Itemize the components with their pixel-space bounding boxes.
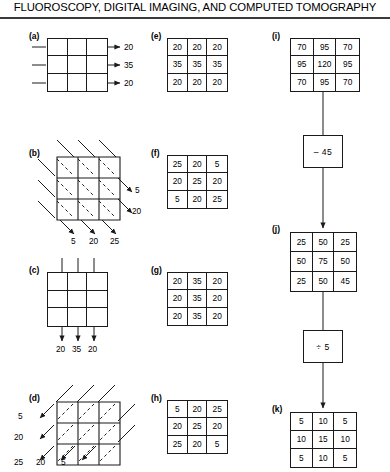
- panel-h-grid: 5 20 25 20 25 20 25 20 5: [167, 400, 228, 454]
- panel-i-grid: 70 95 70 95 120 95 70 95 70: [290, 38, 360, 92]
- grid-cell: [48, 273, 68, 291]
- grid-cell: 10: [334, 431, 356, 449]
- grid-cell: 20: [168, 173, 188, 190]
- grid-cell: 35: [188, 56, 208, 73]
- grid-cell: 5: [168, 191, 188, 208]
- panel-d-grid: [38, 395, 143, 470]
- panel-g-grid: 20 35 20 20 35 20 20 35 20: [167, 272, 228, 326]
- grid-cell: 20: [207, 273, 227, 290]
- grid-cell: [87, 308, 107, 326]
- header-divider: [0, 17, 390, 19]
- grid-cell: [48, 39, 68, 56]
- panel-label-g: (g): [151, 265, 162, 275]
- grid-cell: 25: [188, 173, 208, 190]
- grid-cell: 70: [336, 74, 359, 91]
- panel-a-grid: [47, 38, 108, 92]
- grid-cell: 5: [334, 413, 356, 431]
- page-header: FLUOROSCOPY, DIGITAL IMAGING, AND COMPUT…: [0, 0, 390, 22]
- grid-cell: 50: [313, 233, 335, 252]
- grid-cell: 5: [207, 436, 227, 453]
- grid-cell: 50: [334, 252, 356, 271]
- grid-cell: 95: [314, 39, 337, 56]
- grid-cell: 35: [168, 56, 188, 73]
- grid-cell: [48, 291, 68, 309]
- panel-d-output-bottom-1: 25: [14, 458, 23, 466]
- panel-f-grid: 25 20 5 20 25 20 5 20 25: [167, 155, 228, 209]
- panel-b-grid: [38, 150, 143, 225]
- grid-cell: [87, 74, 107, 91]
- grid-cell: 25: [168, 156, 188, 173]
- panel-a-output-3: 20: [124, 79, 133, 87]
- grid-cell: 5: [291, 413, 313, 431]
- panel-b-output-bottom-3: 25: [110, 237, 119, 245]
- grid-cell: 20: [188, 436, 208, 453]
- grid-cell: 10: [313, 449, 335, 467]
- grid-cell: 120: [314, 56, 337, 73]
- grid-cell: 20: [207, 308, 227, 325]
- grid-cell: 25: [188, 418, 208, 435]
- grid-cell: 50: [313, 272, 335, 291]
- grid-cell: 95: [314, 74, 337, 91]
- panel-label-e: (e): [151, 31, 161, 41]
- panel-d-output-left-1: 5: [18, 412, 23, 420]
- grid-cell: 20: [188, 401, 208, 418]
- grid-cell: 95: [291, 56, 314, 73]
- panel-k-grid: 5 10 5 10 15 10 5 10 5: [290, 412, 357, 468]
- grid-cell: 25: [207, 191, 227, 208]
- panel-c-output-2: 35: [72, 345, 81, 353]
- grid-cell: 25: [168, 436, 188, 453]
- grid-cell: 25: [334, 233, 356, 252]
- grid-cell: 25: [291, 272, 313, 291]
- panel-label-i: (i): [272, 31, 280, 41]
- panel-c-output-1: 20: [56, 345, 65, 353]
- grid-cell: 20: [207, 39, 227, 56]
- grid-cell: [48, 74, 68, 91]
- panel-b-output-right-2: 20: [132, 207, 141, 215]
- grid-cell: [48, 56, 68, 73]
- panel-j-grid: 25 50 25 50 75 50 25 50 45: [290, 232, 357, 292]
- grid-cell: 20: [188, 191, 208, 208]
- grid-cell: 35: [207, 56, 227, 73]
- grid-cell: [68, 273, 88, 291]
- grid-cell: 5: [334, 449, 356, 467]
- grid-cell: [68, 39, 88, 56]
- grid-cell: 20: [168, 74, 188, 91]
- grid-cell: 20: [207, 173, 227, 190]
- grid-cell: 10: [313, 413, 335, 431]
- figure-page: FLUOROSCOPY, DIGITAL IMAGING, AND COMPUT…: [0, 0, 390, 472]
- grid-cell: 35: [188, 290, 208, 307]
- panel-label-c: (c): [29, 265, 39, 275]
- panel-d-output-bottom-3: 5: [61, 458, 66, 466]
- grid-cell: 75: [313, 252, 335, 271]
- grid-cell: 20: [207, 74, 227, 91]
- panel-c-output-3: 20: [88, 345, 97, 353]
- panel-d-output-left-2: 20: [14, 433, 23, 441]
- grid-cell: 20: [188, 74, 208, 91]
- grid-cell: 5: [291, 449, 313, 467]
- grid-cell: 20: [207, 290, 227, 307]
- grid-cell: [68, 291, 88, 309]
- panel-c-grid: [47, 272, 108, 327]
- grid-cell: 70: [291, 39, 314, 56]
- panel-b-output-bottom-2: 20: [89, 237, 98, 245]
- page-title: FLUOROSCOPY, DIGITAL IMAGING, AND COMPUT…: [0, 1, 390, 13]
- panel-e-grid: 20 20 20 35 35 35 20 20 20: [167, 38, 228, 92]
- grid-cell: [68, 74, 88, 91]
- panel-label-a: (a): [29, 31, 39, 41]
- grid-cell: 20: [168, 290, 188, 307]
- panel-label-j: (j): [272, 224, 280, 234]
- panel-a-output-2: 35: [124, 61, 133, 69]
- panel-label-k: (k): [272, 404, 282, 414]
- grid-cell: 20: [188, 156, 208, 173]
- grid-cell: 50: [291, 252, 313, 271]
- grid-cell: 20: [188, 39, 208, 56]
- grid-cell: 20: [168, 273, 188, 290]
- grid-cell: 35: [188, 308, 208, 325]
- grid-cell: 15: [313, 431, 335, 449]
- grid-cell: 70: [336, 39, 359, 56]
- grid-cell: 10: [291, 431, 313, 449]
- panel-label-f: (f): [151, 148, 160, 158]
- panel-d-output-bottom-2: 20: [36, 458, 45, 466]
- operation-divide-box: ÷ 5: [303, 330, 343, 363]
- grid-cell: 70: [291, 74, 314, 91]
